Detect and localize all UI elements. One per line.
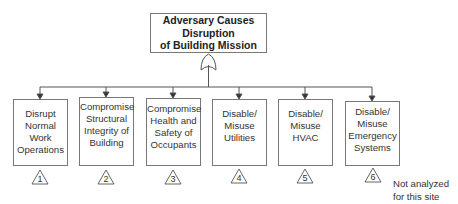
node-line: Systems	[346, 142, 399, 154]
node-line: Health and	[147, 115, 200, 127]
node-line: Normal	[14, 120, 67, 132]
node-line: Safety of	[147, 127, 200, 139]
node-line: Work	[14, 132, 67, 144]
triangle-number: 2	[97, 174, 115, 184]
note-line: Not analyzed	[393, 178, 449, 191]
transfer-triangle-icon: 1	[31, 169, 49, 185]
not-analyzed-note: Not analyzed for this site	[393, 178, 449, 203]
node-compromise-structure: Compromise Structural Integrity of Build…	[79, 97, 134, 166]
transfer-triangle-icon: 2	[97, 169, 115, 185]
node-line: Misuse	[279, 120, 332, 132]
node-line: Disable/	[279, 108, 332, 120]
triangle-number: 5	[296, 173, 314, 183]
node-disable-emergency-systems: Disable/ Misuse Emergency Systems	[345, 101, 400, 166]
node-disrupt-operations: Disrupt Normal Work Operations	[13, 99, 68, 166]
triangle-number: 6	[364, 172, 382, 182]
node-line: Compromise	[80, 101, 133, 113]
node-disable-hvac: Disable/ Misuse HVAC	[278, 99, 333, 166]
node-compromise-health-safety: Compromise Health and Safety of Occupant…	[146, 98, 201, 166]
node-line: Compromise	[147, 103, 200, 115]
node-line: Disrupt	[14, 108, 67, 120]
top-event-line: of Building Mission	[160, 39, 257, 52]
node-line: Utilities	[213, 132, 266, 144]
node-line: Structural	[80, 113, 133, 125]
transfer-triangle-icon: 6	[364, 167, 382, 183]
node-line: Disable/	[346, 106, 399, 118]
transfer-triangle-icon: 4	[230, 168, 248, 184]
transfer-triangle-icon: 3	[164, 169, 182, 185]
triangle-number: 1	[31, 174, 49, 184]
node-line: Occupants	[147, 139, 200, 151]
top-event-box: Adversary Causes Disruption of Building …	[150, 13, 267, 53]
node-line: HVAC	[279, 132, 332, 144]
node-line: Integrity of	[80, 125, 133, 137]
node-line: Operations	[14, 144, 67, 156]
node-line: Misuse	[346, 118, 399, 130]
node-line: Disable/	[213, 108, 266, 120]
top-event-line: Adversary Causes	[160, 14, 257, 27]
triangle-number: 3	[164, 174, 182, 184]
triangle-number: 4	[230, 173, 248, 183]
node-line: Building	[80, 137, 133, 149]
transfer-triangle-icon: 5	[296, 168, 314, 184]
node-line: Emergency	[346, 130, 399, 142]
top-event-line: Disruption	[160, 27, 257, 40]
note-line: for this site	[393, 191, 449, 204]
node-line: Misuse	[213, 120, 266, 132]
node-disable-utilities: Disable/ Misuse Utilities	[212, 99, 267, 166]
